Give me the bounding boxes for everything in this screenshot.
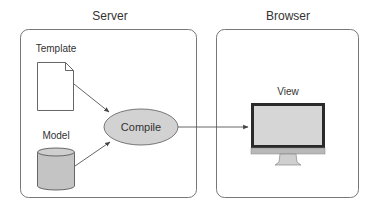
compile-label: Compile	[121, 121, 161, 133]
edge-model-to-compile	[75, 142, 110, 166]
view-monitor-icon	[251, 103, 325, 165]
template-document-icon	[38, 63, 74, 111]
model-database-icon	[38, 148, 75, 190]
server-group-title: Server	[92, 9, 127, 23]
view-label: View	[277, 86, 299, 97]
edge-template-to-compile	[74, 84, 109, 112]
browser-group-title: Browser	[266, 9, 310, 23]
template-label: Template	[36, 43, 77, 54]
diagram-canvas	[0, 0, 375, 220]
model-label: Model	[42, 130, 69, 141]
